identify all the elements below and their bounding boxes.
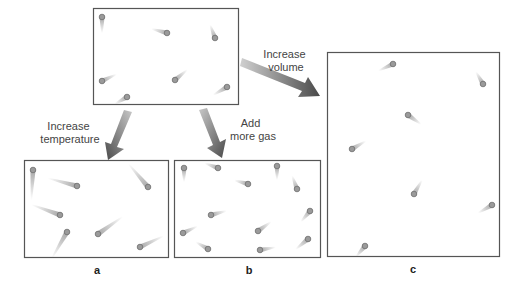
molecule-dot — [30, 167, 36, 173]
molecule-dot — [74, 183, 80, 189]
label-line: temperature — [40, 133, 99, 145]
molecule-dot — [245, 181, 251, 187]
molecule-dot — [64, 229, 70, 235]
molecule-dot — [124, 94, 130, 100]
molecule-dot — [215, 165, 221, 171]
label-line: Add — [241, 117, 261, 129]
label-line: volume — [268, 61, 303, 73]
molecule-dot — [224, 84, 230, 90]
panel-label-a: a — [94, 264, 101, 276]
molecule-dot — [205, 246, 211, 252]
molecule-dot — [255, 228, 261, 234]
molecule-dot — [257, 247, 263, 253]
molecule-dot — [172, 77, 178, 83]
molecule-dot — [294, 186, 300, 192]
arrow-shape-add-gas — [199, 108, 226, 158]
molecule-dot — [181, 165, 187, 171]
molecule-dot — [164, 30, 170, 36]
molecule-dot — [349, 146, 355, 152]
label-line: Increase — [47, 120, 89, 132]
arrow-increase-temperature — [105, 110, 132, 160]
initial-container — [94, 9, 239, 105]
molecule-dot — [95, 231, 101, 237]
panel-c-container — [328, 53, 500, 257]
molecule-dot — [180, 230, 186, 236]
gas-diagram: Increase temperature Add more gas Increa… — [0, 0, 519, 293]
molecule-dot — [305, 236, 311, 242]
molecule-dot — [405, 112, 411, 118]
label-increase-volume: Increase volume — [263, 48, 308, 73]
molecule-dot — [307, 208, 313, 214]
molecule-dot — [212, 35, 218, 41]
molecule-dot — [274, 163, 280, 169]
molecule-dot — [208, 212, 214, 218]
label-line: Increase — [263, 48, 305, 60]
label-line: more gas — [230, 130, 276, 142]
molecule-dot — [362, 243, 368, 249]
molecule-dot — [390, 61, 396, 67]
molecule-dot — [145, 184, 151, 190]
arrow-add-more-gas — [199, 108, 226, 158]
molecule-dot — [137, 244, 143, 250]
molecule-dot — [489, 202, 495, 208]
molecule-dot — [411, 191, 417, 197]
molecule-dot — [57, 212, 63, 218]
label-add-more-gas: Add more gas — [230, 117, 276, 142]
molecule-dot — [480, 81, 486, 87]
panel-label-b: b — [246, 264, 253, 276]
arrow-shape-temperature — [105, 110, 132, 160]
molecule-dot — [99, 14, 105, 20]
panel-label-c: c — [410, 263, 416, 275]
label-increase-temperature: Increase temperature — [40, 120, 99, 145]
molecule-dot — [99, 78, 105, 84]
